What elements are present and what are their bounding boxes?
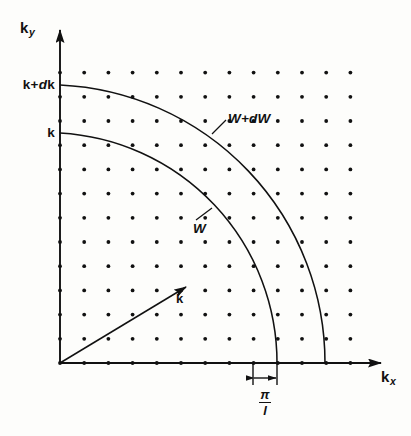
lattice-dot <box>300 216 304 220</box>
lattice-dot <box>155 119 159 123</box>
lattice-dot <box>324 289 328 293</box>
lattice-dot <box>300 289 304 293</box>
lattice-dot <box>228 216 232 220</box>
lattice-dot <box>300 264 304 268</box>
lattice-dot <box>155 95 159 99</box>
lattice-dot <box>203 337 207 341</box>
x-axis-label-subscript: x <box>390 375 396 387</box>
lattice-dot <box>324 216 328 220</box>
lattice-dot <box>179 264 183 268</box>
lattice-dot <box>107 95 111 99</box>
lattice-dot <box>203 168 207 172</box>
lattice-dot <box>300 168 304 172</box>
lattice-dot <box>349 337 353 341</box>
lattice-dot <box>107 168 111 172</box>
tick-label-k-plus-dk-tail: k <box>47 77 55 92</box>
lattice-dot <box>300 192 304 196</box>
x-axis-label-main: k <box>381 368 390 385</box>
outer-arc-label: W+dW <box>228 112 270 126</box>
lattice-dot <box>82 216 86 220</box>
lattice-dot <box>276 192 280 196</box>
tick-label-k-plus-dk: k+dk <box>0 78 55 92</box>
lattice-dot <box>107 313 111 317</box>
lattice-dot <box>179 143 183 147</box>
lattice-dot <box>82 143 86 147</box>
lattice-dot <box>107 264 111 268</box>
tick-label-k-plus-dk-differential: d <box>39 77 48 92</box>
lattice-dot <box>155 168 159 172</box>
outer-arc-label-tail: W <box>257 111 270 126</box>
lattice-dot <box>300 337 304 341</box>
lattice-dot <box>300 95 304 99</box>
lattice-dot <box>276 313 280 317</box>
lattice-dot <box>252 313 256 317</box>
lattice-dot <box>349 119 353 123</box>
lattice-dot <box>324 240 328 244</box>
lattice-dot <box>228 192 232 196</box>
lattice-dot <box>276 240 280 244</box>
tick-label-k: k <box>0 126 55 140</box>
lattice-dot <box>131 337 135 341</box>
curve-leader-lines <box>196 120 226 220</box>
tick-label-k-plus-dk-main: k+ <box>23 77 39 92</box>
lattice-dot <box>82 240 86 244</box>
lattice-dot <box>276 216 280 220</box>
x-axis-label: kx <box>381 369 396 387</box>
lattice-dot <box>82 264 86 268</box>
k-vector-arrow <box>60 287 186 363</box>
lattice-dot <box>179 337 183 341</box>
lattice-dot <box>131 289 135 293</box>
lattice-dot <box>107 143 111 147</box>
lattice-dot <box>131 313 135 317</box>
lattice-dot <box>155 264 159 268</box>
lattice-dot <box>155 313 159 317</box>
lattice-dot <box>324 95 328 99</box>
lattice-dot <box>349 71 353 75</box>
lattice-dot <box>155 71 159 75</box>
lattice-dot <box>276 264 280 268</box>
lattice-dot <box>324 71 328 75</box>
lattice-dot <box>203 240 207 244</box>
lattice-dot <box>349 95 353 99</box>
lattice-dot <box>252 71 256 75</box>
lattice-dot <box>155 337 159 341</box>
lattice-dot <box>252 216 256 220</box>
lattice-dot <box>179 216 183 220</box>
lattice-spacing-dimension <box>253 363 277 385</box>
lattice-dot <box>131 240 135 244</box>
lattice-dot <box>82 289 86 293</box>
k-vector-label: k <box>176 292 183 305</box>
outer-arc-label-main: W+ <box>228 111 249 126</box>
lattice-dot <box>324 168 328 172</box>
lattice-dot <box>349 313 353 317</box>
lattice-dot <box>203 216 207 220</box>
lattice-dot <box>252 168 256 172</box>
lattice-dot <box>324 143 328 147</box>
lattice-dot <box>252 143 256 147</box>
lattice-dot <box>82 95 86 99</box>
lattice-dot <box>228 168 232 172</box>
lattice-dot <box>107 337 111 341</box>
k-space-figure: ky kx k+dk k W+dW W k π l <box>0 0 411 436</box>
lattice-dot <box>82 337 86 341</box>
lattice-dot <box>155 192 159 196</box>
lattice-spacing-numerator: π <box>255 388 275 401</box>
lattice-dot <box>276 168 280 172</box>
lattice-dot <box>155 143 159 147</box>
lattice-dot <box>300 71 304 75</box>
lattice-dot <box>179 168 183 172</box>
lattice-dot <box>155 216 159 220</box>
outer-arc-leader <box>212 120 226 134</box>
lattice-dot <box>276 143 280 147</box>
y-axis-label: ky <box>20 20 35 38</box>
y-axis-label-main: k <box>20 19 29 36</box>
lattice-dot <box>276 119 280 123</box>
lattice-dot <box>300 313 304 317</box>
lattice-dot <box>82 313 86 317</box>
lattice-spacing-denominator: l <box>255 404 275 417</box>
lattice-dot <box>276 289 280 293</box>
lattice-dot <box>252 192 256 196</box>
lattice-dot <box>131 71 135 75</box>
lattice-dot <box>228 313 232 317</box>
lattice-dot <box>349 216 353 220</box>
